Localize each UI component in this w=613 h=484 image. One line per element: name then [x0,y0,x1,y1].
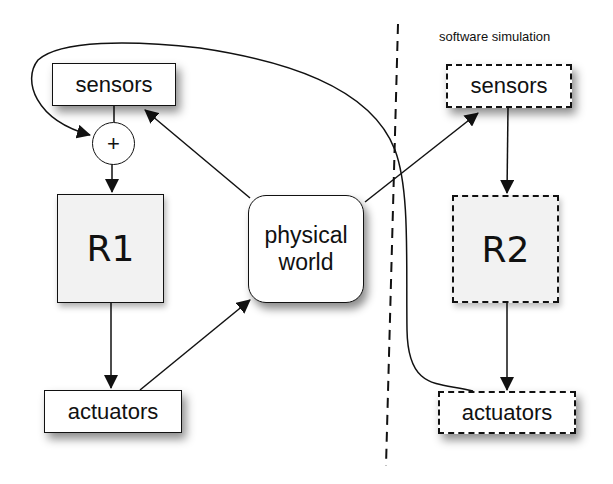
edge-actuators-to-world [140,300,250,390]
actuators-right-node[interactable]: actuators [438,391,576,434]
edge-world-to-sensors-left [145,110,250,198]
physical-world-line1: physical [264,222,347,249]
edge-sensors-right-to-r2 [507,108,508,193]
sensors-left-node[interactable]: sensors [52,63,176,106]
r1-controller-node[interactable]: R1 [57,194,164,303]
sum-junction-node[interactable]: + [92,122,135,165]
diagram-canvas: software simulation sensors + R1 actuato… [0,0,613,484]
sensors-right-node[interactable]: sensors [446,64,572,108]
simulation-divider [386,24,398,466]
physical-world-line2: world [279,249,334,276]
software-simulation-label: software simulation [439,29,550,44]
physical-world-node[interactable]: physical world [248,195,364,303]
r2-controller-node[interactable]: R2 [452,195,559,303]
actuators-left-node[interactable]: actuators [44,390,182,433]
